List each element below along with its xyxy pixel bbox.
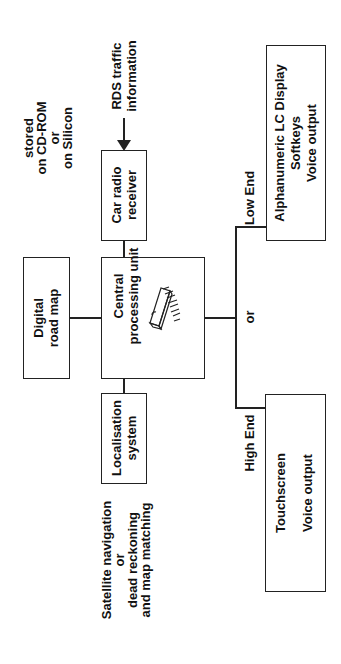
rds-annotation: RDS traffic information [109,40,139,112]
rds-arrow-shaft [123,118,125,142]
branch-vertical-line [235,226,237,408]
high-end-display-label: Touchscreen Voice output [267,453,321,533]
high-end-label: High End [242,414,257,471]
cpu-localisation-connector [123,378,125,393]
low-end-display-label: Alphanumeric LC Display Softkeys Voice o… [272,64,320,221]
branch-low-end-line [235,226,266,228]
road-map-label: Digital road map [31,289,61,348]
storage-annotation: stored on CD-ROM or on Silicon [22,102,74,175]
cpu-label: Central processing unit [111,248,141,345]
arrow-down-icon [117,140,131,151]
map-cpu-connector [69,317,101,319]
chip-icon [144,283,190,345]
localisation-label: Localisation system [109,400,139,476]
cpu-branch-connector [204,317,236,319]
or-branch-label: or [242,311,257,324]
branch-high-end-line [235,407,266,409]
car-radio-label: Car radio receiver [109,166,139,223]
positioning-annotation: Satellite navigation or dead reckoning a… [100,501,152,619]
low-end-label: Low End [242,171,257,225]
